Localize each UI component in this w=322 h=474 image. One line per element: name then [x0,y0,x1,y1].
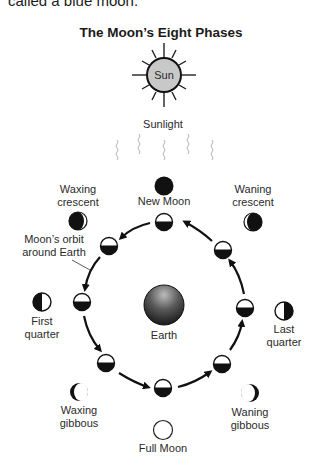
diagram-title: The Moon’s Eight Phases [79,25,242,40]
last-quarter-label-1: Last [274,323,295,335]
orbit-moon-icon [74,294,91,311]
full-moon-icon [154,421,173,440]
last-quarter-label-2: quarter [267,336,302,348]
sunlight-label: Sunlight [143,118,183,130]
orbit-moon-icon [237,300,254,317]
new-moon-label: New Moon [138,195,191,207]
waning-gibbous-label-1: Waning [232,406,269,418]
earth-icon [144,285,184,325]
first-quarter-label-2: quarter [25,328,60,340]
earth-label: Earth [151,329,177,341]
orbit-label-line2: around Earth [22,246,86,258]
top-text: called a blue moon. [8,0,138,9]
orbit-moon-icon [98,355,115,372]
waxing-crescent-icon [69,212,87,230]
first-quarter-icon [33,293,51,311]
last-quarter-icon [275,302,293,320]
full-moon-label: Full Moon [139,442,187,454]
waning-crescent-label-1: Waning [235,183,272,195]
waning-gibbous-label-2: gibbous [231,419,270,431]
sun-label: Sun [154,69,174,81]
moon-phases-diagram: called a blue moon. The Moon’s Eight Pha… [0,0,322,474]
orbit-leader-line [72,260,90,270]
waning-crescent-label-2: crescent [232,196,274,208]
orbit-moon-icon [101,238,118,255]
waxing-gibbous-label-1: Waxing [61,404,97,416]
orbit-moon-icon [155,380,172,397]
waxing-gibbous-label-2: gibbous [60,417,99,429]
orbit-moon-icon [215,242,232,259]
first-quarter-label-1: First [31,315,52,327]
waning-crescent-icon [244,213,262,231]
orbit-label-line1: Moon’s orbit [24,233,84,245]
waning-gibbous-icon [241,384,259,402]
orbit-moon-icon [156,214,173,231]
sunlight-rays-icon [116,134,213,160]
waxing-crescent-label-2: crescent [57,196,99,208]
waxing-gibbous-icon [70,383,88,401]
waxing-crescent-label-1: Waxing [60,183,96,195]
orbit-moon-icon [214,356,231,373]
new-moon-icon [155,177,174,196]
